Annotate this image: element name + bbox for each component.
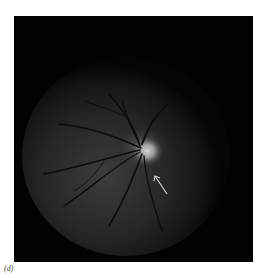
panel-label: (d) (4, 264, 13, 273)
fundus-image (14, 16, 253, 262)
fundus-figure (14, 16, 253, 262)
